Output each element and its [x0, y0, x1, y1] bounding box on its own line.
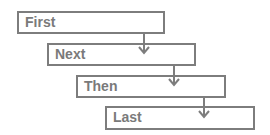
step-last: Last	[105, 106, 255, 130]
step-label: Next	[55, 46, 85, 62]
step-first: First	[17, 11, 165, 34]
step-then: Then	[76, 75, 226, 98]
step-next: Next	[47, 43, 196, 66]
step-label: Then	[84, 78, 117, 94]
step-label: First	[25, 14, 55, 30]
step-label: Last	[113, 109, 142, 125]
